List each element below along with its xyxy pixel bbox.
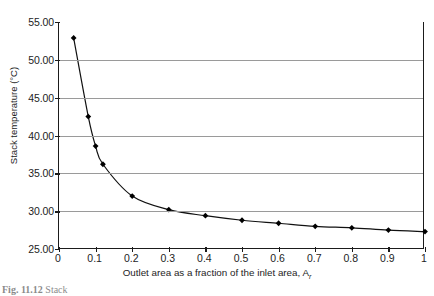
plot-area [58,22,424,249]
y-tick-mark [55,22,60,23]
data-point-marker [276,220,282,226]
grid-line [59,60,423,61]
figure-caption-number: Fig. 11.12 [2,284,43,295]
x-tick-label: 0.2 [124,252,139,264]
y-tick-label: 30.00 [8,205,54,217]
y-axis-title: Stack temperature (°C) [8,36,19,196]
x-tick-label: 0 [55,252,61,264]
y-tick-label: 55.00 [8,16,54,28]
data-point-marker [312,223,318,229]
data-point-marker [239,217,245,223]
figure-caption-text: Stack [45,284,67,295]
y-tick-mark [55,98,60,99]
y-tick-label: 25.00 [8,243,54,255]
data-point-marker [71,35,77,41]
y-tick-mark [55,173,60,174]
x-tick-label: 0.9 [380,252,395,264]
data-point-marker [349,225,355,231]
grid-line [59,211,423,212]
data-point-marker [93,143,99,149]
y-tick-mark [55,60,60,61]
x-tick-label: 1 [421,252,427,264]
x-tick-label: 0.5 [234,252,249,264]
x-tick-label: 0.8 [343,252,358,264]
grid-line [59,136,423,137]
y-tick-mark [55,136,60,137]
x-axis-title: Outlet area as a fraction of the inlet a… [0,267,434,280]
data-point-marker [85,114,91,120]
x-axis-title-subscript: r [309,273,311,280]
data-point-marker [386,227,392,233]
x-tick-label: 0.1 [87,252,102,264]
y-tick-mark [55,211,60,212]
data-point-marker [203,213,209,219]
x-tick-label: 0.4 [197,252,212,264]
figure-caption: Fig. 11.12 Stack [2,284,432,296]
x-tick-label: 0.3 [160,252,175,264]
x-tick-label: 0.7 [307,252,322,264]
figure-container: 25.0030.0035.0040.0045.0050.0055.00 Stac… [0,0,434,296]
grid-line [59,98,423,99]
data-point-marker [422,229,428,235]
x-axis-title-text: Outlet area as a fraction of the inlet a… [123,267,309,278]
x-tick-label: 0.6 [270,252,285,264]
grid-line [59,173,423,174]
